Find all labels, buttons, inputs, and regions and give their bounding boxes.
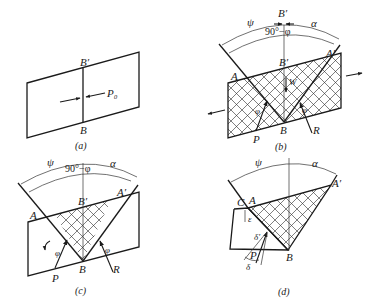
label-a-prime: A′ <box>325 47 336 59</box>
label-r: R <box>312 124 320 136</box>
retaining-wall-diagram: B′ P₀ B (a) ψ α B′ 90°−φ B′ A A′ W φ <box>0 0 371 306</box>
angle-arc <box>231 164 336 182</box>
label-top-b-prime: B′ <box>278 7 288 19</box>
panel-d: ψ α C A A′ ε δ′ P δ B (d) <box>228 156 342 298</box>
panel-b: ψ α B′ 90°−φ B′ A A′ W φ φ B P R (b) <box>208 7 362 153</box>
force-arrow-right <box>86 93 105 97</box>
label-psi: ψ <box>247 16 254 28</box>
inner-arc <box>229 35 334 53</box>
tension-arrow-left <box>208 110 225 114</box>
label-p: P <box>252 133 260 145</box>
label-b: B <box>286 251 293 263</box>
label-a: A <box>29 209 37 221</box>
label-a-prime: A′ <box>331 177 342 189</box>
label-b: B <box>80 124 87 136</box>
label-delta-prime: δ′ <box>254 232 261 242</box>
caption-c: (c) <box>75 285 87 297</box>
inner-arc <box>29 174 131 192</box>
label-angle: 90°−φ <box>265 26 291 37</box>
panel-c: ψ α 90°−φ B′ A A′ φ φ B P R (c) <box>18 156 139 297</box>
label-c: C <box>237 196 245 208</box>
label-a: A <box>230 70 238 82</box>
label-r: R <box>112 263 120 275</box>
caption-d: (d) <box>278 286 290 298</box>
caption-a: (a) <box>75 140 87 152</box>
label-angle: 90°−φ <box>65 163 91 174</box>
label-alpha: α <box>312 157 318 169</box>
label-b-prime: B′ <box>80 56 90 68</box>
label-delta: δ <box>246 262 251 272</box>
label-b-prime: B′ <box>78 195 88 207</box>
caption-b: (b) <box>275 141 287 153</box>
label-p: P <box>51 272 59 284</box>
rotation-arrow <box>45 241 50 250</box>
label-b: B <box>79 263 86 275</box>
label-phi-left: φ <box>255 106 260 116</box>
label-b: B <box>280 124 287 136</box>
label-p0: P₀ <box>106 87 118 99</box>
force-arrow-left <box>60 98 80 102</box>
label-psi: ψ <box>47 156 54 168</box>
label-phi-right: φ <box>105 245 110 255</box>
label-psi: ψ <box>255 156 262 168</box>
label-alpha: α <box>311 17 317 29</box>
label-p: P <box>249 249 257 261</box>
label-phi-right: φ <box>302 105 307 115</box>
label-phi-left: φ <box>55 248 60 258</box>
label-epsilon: ε <box>248 214 252 224</box>
label-alpha: α <box>110 157 116 169</box>
label-a: A <box>248 194 256 206</box>
panel-a: B′ P₀ B (a) <box>27 52 139 152</box>
label-a-prime: A′ <box>116 186 127 198</box>
label-mid-b-prime: B′ <box>279 56 289 68</box>
tension-arrow-right <box>346 73 362 76</box>
